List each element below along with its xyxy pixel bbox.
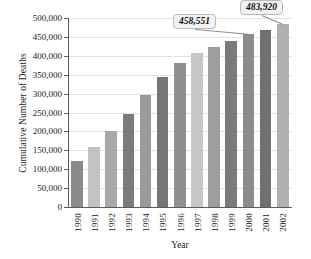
y-tick-mark: [64, 37, 68, 38]
bar[interactable]: [140, 95, 152, 207]
x-tick-label: 1994: [141, 213, 151, 232]
y-tick-label: 150,000: [33, 145, 62, 155]
bar-slot: [155, 18, 172, 207]
bar[interactable]: [225, 41, 237, 207]
x-tick-label: 1993: [124, 213, 134, 232]
bar-slot: [120, 18, 137, 207]
y-tick-label: 450,000: [33, 32, 62, 42]
y-tick-mark: [64, 169, 68, 170]
data-callout: 458,551: [173, 14, 216, 29]
bar-slot: [223, 18, 240, 207]
bar-slot: [138, 18, 155, 207]
bar[interactable]: [123, 114, 135, 207]
y-tick-mark: [64, 18, 68, 19]
x-tick-label: 2002: [278, 213, 288, 232]
x-tick-label: 1995: [158, 213, 168, 232]
bar[interactable]: [157, 77, 169, 207]
plot-area: 050,000100,000150,000200,000250,000300,0…: [68, 18, 292, 208]
y-tick-mark: [64, 207, 68, 208]
y-tick-label: 200,000: [33, 126, 62, 136]
x-tick-label: 1990: [73, 213, 83, 232]
bar[interactable]: [277, 24, 289, 207]
y-tick-mark: [64, 75, 68, 76]
bar-slot: [275, 18, 292, 207]
y-tick-label: 300,000: [33, 89, 62, 99]
y-tick-label: 250,000: [33, 108, 62, 118]
bar[interactable]: [260, 30, 272, 207]
bar[interactable]: [88, 147, 100, 207]
x-tick-label: 1996: [176, 213, 186, 232]
bar[interactable]: [208, 47, 220, 207]
y-tick-mark: [64, 94, 68, 95]
bar-slot: [69, 18, 86, 207]
bars-group: [69, 18, 292, 207]
x-tick-label: 1991: [90, 213, 100, 232]
x-tick-label: 1992: [107, 213, 117, 232]
x-axis-title: Year: [68, 240, 292, 250]
bar[interactable]: [243, 34, 255, 207]
bar[interactable]: [191, 53, 203, 207]
y-axis-title: Cumulative Number of Deaths: [18, 38, 28, 188]
y-tick-label: 0: [58, 202, 63, 212]
data-callout: 483,920: [240, 0, 283, 15]
y-tick-label: 50,000: [37, 183, 62, 193]
x-tick-label: 2000: [244, 213, 254, 232]
bar[interactable]: [105, 131, 117, 207]
x-tick-label: 1997: [193, 213, 203, 232]
bar-slot: [206, 18, 223, 207]
bar-slot: [86, 18, 103, 207]
y-tick-mark: [64, 131, 68, 132]
y-tick-mark: [64, 113, 68, 114]
x-tick-label: 1998: [210, 213, 220, 232]
bar-slot: [172, 18, 189, 207]
y-tick-mark: [64, 188, 68, 189]
y-tick-label: 500,000: [33, 13, 62, 23]
x-tick-label: 1999: [227, 213, 237, 232]
bar[interactable]: [174, 63, 186, 207]
bar-slot: [189, 18, 206, 207]
y-tick-label: 400,000: [33, 51, 62, 61]
bar-chart: Cumulative Number of Deaths 050,000100,0…: [0, 0, 311, 259]
y-tick-label: 350,000: [33, 70, 62, 80]
x-axis-line: [68, 207, 292, 208]
bar-slot: [103, 18, 120, 207]
x-tick-label: 2001: [261, 213, 271, 232]
bar-slot: [241, 18, 258, 207]
bar[interactable]: [71, 161, 83, 207]
y-tick-mark: [64, 56, 68, 57]
bar-slot: [258, 18, 275, 207]
y-tick-mark: [64, 150, 68, 151]
y-tick-label: 100,000: [33, 164, 62, 174]
